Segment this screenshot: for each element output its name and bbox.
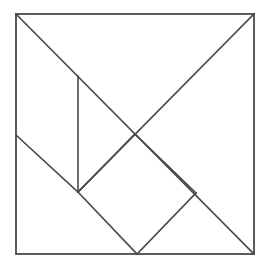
tangram-figure-container — [0, 0, 270, 269]
tangram-diagram — [0, 0, 270, 269]
